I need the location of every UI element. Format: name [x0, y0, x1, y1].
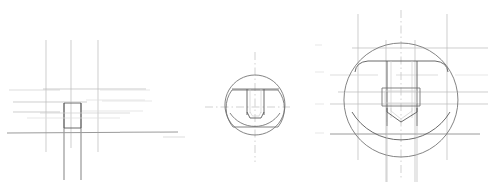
view-right-group: [330, 10, 488, 182]
right-keyway-bottom: [387, 108, 417, 122]
drawing-svg: [0, 0, 490, 191]
drawing-canvas: CAD Line Drawing Three orthographic / sc…: [0, 0, 490, 191]
center-keyway-bottom-inner: [250, 112, 261, 116]
center-keyway-bottom: [247, 112, 264, 118]
view-center-group: [163, 45, 324, 162]
view-left-group: [7, 40, 178, 180]
left-slot-rect: [64, 103, 81, 128]
right-top-chord: [355, 61, 448, 72]
